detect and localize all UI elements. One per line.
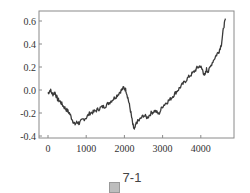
x-tick-label: 2000 xyxy=(114,143,134,154)
y-tick-label: 0.2 xyxy=(24,62,37,73)
line-chart: -0.4-0.20.00.20.40.6 01000200030004000 xyxy=(0,0,250,160)
x-tick-label: 1000 xyxy=(76,143,96,154)
x-tick-label: 0 xyxy=(46,143,51,154)
figure-caption: 图7-1 xyxy=(0,170,250,193)
x-tick-label: 4000 xyxy=(191,143,211,154)
y-tick-label: 0.6 xyxy=(24,16,37,27)
y-tick-label: 0.4 xyxy=(24,39,37,50)
caption-glyph: 图 xyxy=(109,182,120,193)
caption-text: 7-1 xyxy=(123,170,142,185)
y-tick-label: 0.0 xyxy=(24,85,37,96)
x-tick-label: 3000 xyxy=(153,143,173,154)
y-tick-label: -0.2 xyxy=(20,108,36,119)
y-tick-label: -0.4 xyxy=(20,131,36,142)
